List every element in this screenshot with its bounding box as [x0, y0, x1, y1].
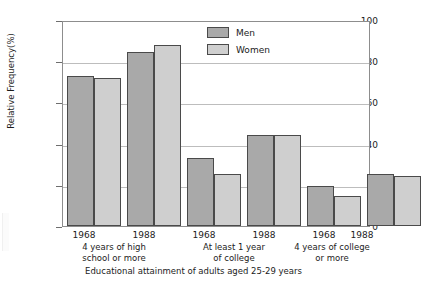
bar-men-1988-somecollege — [247, 135, 274, 226]
x-group-label-college-line1: 4 years of college — [278, 242, 386, 253]
x-label-year-3: 1968 — [182, 230, 226, 240]
legend-swatch-women-icon — [207, 44, 229, 55]
x-label-year-4: 1988 — [242, 230, 286, 240]
bar-women-1968-highschool — [94, 78, 121, 226]
x-axis-title: Educational attainment of adults aged 25… — [0, 266, 387, 276]
x-group-label-college-line2: or more — [278, 253, 386, 264]
legend-label-women: Women — [236, 45, 270, 55]
bar-women-1988-college — [394, 176, 421, 226]
legend-label-men: Men — [236, 28, 255, 38]
gridline-80 — [63, 63, 369, 64]
x-group-label-somecollege-line2: of college — [180, 253, 288, 264]
legend: Men Women — [207, 24, 293, 58]
x-group-label-somecollege: At least 1 year of college — [180, 242, 288, 264]
x-group-label-somecollege-line1: At least 1 year — [180, 242, 288, 253]
x-group-label-highschool: 4 years of high school or more — [60, 242, 168, 264]
legend-item-women: Women — [207, 41, 293, 58]
x-group-label-college: 4 years of college or more — [278, 242, 386, 264]
bar-men-1968-highschool — [67, 76, 94, 226]
bar-men-1968-somecollege — [187, 158, 214, 226]
bar-men-1968-college — [307, 186, 334, 226]
x-label-year-2: 1988 — [122, 230, 166, 240]
bar-men-1988-highschool — [127, 52, 154, 226]
legend-item-men: Men — [207, 24, 293, 41]
bar-women-1968-somecollege — [214, 174, 241, 226]
y-tick-mark-0 — [56, 227, 62, 228]
y-axis-label: Relative Frequency(%) — [6, 11, 16, 151]
x-group-label-highschool-line2: school or more — [60, 253, 168, 264]
bar-women-1988-somecollege — [274, 135, 301, 226]
bar-men-1988-college — [367, 174, 394, 226]
page-edge-artifact — [2, 213, 9, 251]
x-label-year-1: 1968 — [62, 230, 106, 240]
bar-women-1968-college — [334, 196, 361, 226]
legend-swatch-men-icon — [207, 27, 229, 38]
x-label-year-6: 1988 — [340, 230, 384, 240]
bar-women-1988-highschool — [154, 45, 181, 226]
x-group-label-highschool-line1: 4 years of high — [60, 242, 168, 253]
